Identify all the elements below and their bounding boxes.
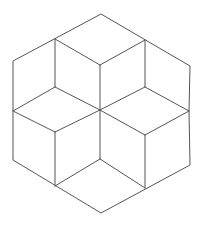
edge-f-center — [55, 110, 100, 132]
edge-e-center — [100, 87, 145, 110]
edge-r-e — [145, 87, 189, 111]
edge-h-i — [55, 159, 100, 186]
edge-b-c — [100, 40, 145, 65]
edge-r-g — [145, 111, 189, 135]
edge-a-c — [55, 39, 100, 65]
edge-h-j — [100, 159, 145, 188]
rhombus-edges — [13, 39, 189, 188]
edge-d-center — [55, 87, 100, 110]
edge-l-d — [13, 87, 55, 111]
hexagon-outline — [13, 14, 190, 213]
edge-g-center — [100, 110, 145, 135]
edge-l-f — [13, 111, 55, 132]
hexagon-rhombus-diagram — [0, 0, 200, 226]
